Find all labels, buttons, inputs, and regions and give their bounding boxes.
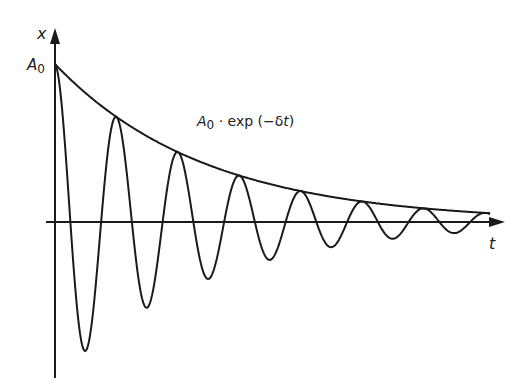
x-axis-arrow xyxy=(489,217,505,227)
x-axis-label: t xyxy=(489,234,495,253)
oscillation-curve xyxy=(55,64,490,351)
y-axis-label: x xyxy=(37,24,46,43)
amplitude-label: A0 xyxy=(27,56,45,76)
damped-oscillation-diagram xyxy=(0,0,529,392)
y-axis-arrow xyxy=(50,28,60,44)
envelope-label: A0 · exp (−δt) xyxy=(197,113,294,132)
envelope-curve xyxy=(55,64,490,213)
